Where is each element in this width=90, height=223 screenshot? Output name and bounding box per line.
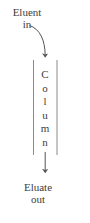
column-label-letter: l: [43, 95, 46, 109]
chromatography-column-diagram: Eluent in C o l u m n Eluate out: [0, 0, 90, 223]
curved-inlet-arrow: [30, 26, 46, 56]
outlet-label-line1: Eluate: [8, 181, 68, 193]
outlet-label-line2: out: [8, 193, 68, 205]
column-label: C o l u m n: [33, 68, 57, 149]
column-label-letter: n: [42, 136, 48, 150]
column-label-letter: u: [42, 109, 48, 123]
inlet-label-line1: Eluent: [0, 6, 54, 18]
inlet-label-line2: in: [0, 18, 54, 30]
column-label-letter: o: [42, 82, 48, 96]
inlet-label: Eluent in: [0, 6, 54, 30]
outlet-label: Eluate out: [8, 181, 68, 205]
column-label-letter: m: [41, 122, 50, 136]
column-label-letter: C: [41, 68, 48, 82]
